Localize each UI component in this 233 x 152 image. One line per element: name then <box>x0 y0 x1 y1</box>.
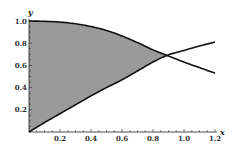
y-axis-label: y <box>27 7 34 17</box>
y-tick-label: 0.2 <box>15 105 27 114</box>
y-tick-label: 0.8 <box>15 39 27 48</box>
y-tick-label: 1.0 <box>15 17 27 26</box>
x-tick-label: 0.4 <box>85 134 97 143</box>
x-tick-label: 0.8 <box>147 134 159 143</box>
x-tick-labels: 0.20.40.60.81.01.2 <box>54 134 221 143</box>
x-tick-label: 1.0 <box>178 134 190 143</box>
chart: 0.20.40.60.81.01.2 0.20.40.60.81.0 x y <box>0 0 233 152</box>
x-tick-label: 0.6 <box>116 134 128 143</box>
x-tick-label: 0.2 <box>54 134 66 143</box>
y-tick-labels: 0.20.40.60.81.0 <box>15 17 27 115</box>
shaded-region <box>29 21 167 132</box>
x-axis-label: x <box>219 127 225 137</box>
y-tick-label: 0.4 <box>15 83 27 92</box>
y-tick-label: 0.6 <box>15 61 27 70</box>
